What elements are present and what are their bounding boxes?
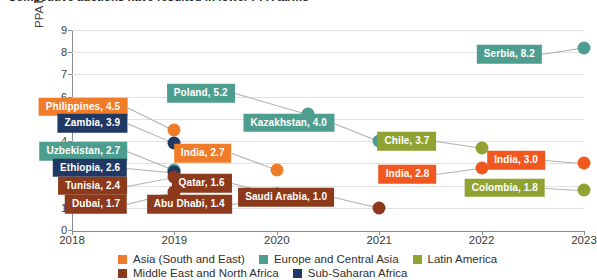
legend-item[interactable]: Latin America [413, 253, 498, 265]
x-tick-label: 2022 [469, 234, 495, 246]
data-dot-colombia[interactable] [578, 184, 591, 197]
legend-item[interactable]: Europe and Central Asia [259, 253, 399, 265]
data-dot-india[interactable] [578, 157, 591, 170]
x-tick-label: 2019 [162, 234, 188, 246]
data-label-tunisia[interactable]: Tunisia, 2.4 [58, 176, 127, 195]
y-tick-label: 7 [47, 68, 67, 80]
x-tick-label: 2021 [366, 234, 392, 246]
data-label-india[interactable]: India, 2.7 [174, 144, 232, 163]
x-tick-mark [174, 231, 175, 235]
data-label-poland[interactable]: Poland, 5.2 [167, 84, 235, 103]
data-label-colombia[interactable]: Colombia, 1.8 [465, 179, 545, 198]
x-axis-line [72, 231, 584, 232]
legend-item[interactable]: Sub-Saharan Africa [293, 267, 408, 279]
data-label-abu-dhabi[interactable]: Abu Dhabi, 1.4 [147, 195, 232, 214]
x-tick-mark [379, 231, 380, 235]
data-dot-chile[interactable] [475, 141, 488, 154]
data-dot-india[interactable] [475, 161, 488, 174]
x-tick-mark [72, 231, 73, 235]
data-label-serbia[interactable]: Serbia, 8.2 [477, 45, 542, 64]
data-label-dubai[interactable]: Dubai, 1.7 [65, 195, 127, 214]
legend-label: Middle East and North Africa [133, 267, 279, 279]
legend-swatch-icon [118, 255, 127, 264]
legend-row: Asia (South and East)Europe and Central … [118, 252, 588, 266]
legend-swatch-icon [259, 255, 268, 264]
data-label-kazakhstan[interactable]: Kazakhstan, 4.0 [244, 114, 335, 133]
x-tick-label: 2020 [264, 234, 290, 246]
x-tick-mark [277, 231, 278, 235]
y-tick-label: 8 [47, 46, 67, 58]
gridline [72, 141, 584, 142]
legend-item[interactable]: Asia (South and East) [118, 253, 245, 265]
legend-swatch-icon [293, 269, 302, 278]
gridline [72, 97, 584, 98]
legend-label: Sub-Saharan Africa [308, 267, 408, 279]
gridline [72, 74, 584, 75]
x-tick-label: 2023 [571, 234, 597, 246]
y-tick-mark [68, 52, 72, 53]
data-label-qatar[interactable]: Qatar, 1.6 [172, 174, 232, 193]
data-label-india[interactable]: India, 3.0 [487, 151, 545, 170]
legend-swatch-icon [118, 269, 127, 278]
data-label-india[interactable]: India, 2.8 [379, 165, 437, 184]
x-tick-mark [584, 231, 585, 235]
data-dot-philippines[interactable] [168, 124, 181, 137]
data-label-ethiopia[interactable]: Ethiopia, 2.6 [53, 159, 127, 178]
legend-label: Asia (South and East) [133, 253, 245, 265]
x-tick-mark [482, 231, 483, 235]
legend-swatch-icon [413, 255, 422, 264]
x-tick-label: 2018 [59, 234, 85, 246]
gridline [72, 30, 584, 31]
data-dot-saudi-arabia[interactable] [373, 201, 386, 214]
plot-area: PPA tariff estimates based on auctions (… [72, 30, 584, 230]
y-tick-label: 9 [47, 24, 67, 36]
y-tick-mark [68, 74, 72, 75]
data-label-saudi-arabia[interactable]: Saudi Arabia, 1.0 [238, 188, 334, 207]
chart-title: Competitive auctions have resulted in lo… [8, 0, 568, 3]
legend-item[interactable]: Middle East and North Africa [118, 267, 279, 279]
legend-row: Middle East and North AfricaSub-Saharan … [118, 266, 588, 280]
y-tick-mark [68, 30, 72, 31]
data-label-zambia[interactable]: Zambia, 3.9 [58, 114, 128, 133]
data-label-chile[interactable]: Chile, 3.7 [378, 132, 437, 151]
legend-label: Europe and Central Asia [274, 253, 399, 265]
data-dot-india[interactable] [270, 164, 283, 177]
legend-label: Latin America [428, 253, 498, 265]
data-dot-serbia[interactable] [578, 41, 591, 54]
legend: Asia (South and East)Europe and Central … [118, 252, 588, 280]
